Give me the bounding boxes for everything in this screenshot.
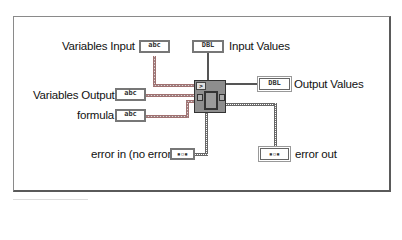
caption-underline	[13, 199, 88, 200]
variables-output-terminal[interactable]: abc	[115, 88, 146, 101]
formula-label: formula	[77, 109, 114, 122]
output-values-terminal[interactable]: DBL	[259, 78, 290, 90]
wire-output-values	[225, 83, 258, 85]
variables-input-label: Variables Input	[62, 40, 135, 53]
formula-node-icon[interactable]: >	[194, 80, 226, 113]
node-input-subicon: >	[196, 82, 206, 90]
error-out-terminal[interactable]: ▪▫▪	[260, 148, 289, 160]
variables-output-label: Variables Output	[33, 89, 115, 102]
error-cluster-icon: ▪▫▪	[177, 150, 188, 157]
error-out-label: error out	[295, 148, 337, 161]
string-type-tag: abc	[148, 42, 161, 49]
variables-input-terminal[interactable]: abc	[139, 40, 170, 53]
input-values-terminal[interactable]: DBL	[192, 40, 224, 53]
node-center-subicon	[204, 91, 218, 110]
wire-variables-input-v	[153, 56, 156, 86]
wire-formula-h	[146, 115, 188, 118]
formula-terminal[interactable]: abc	[115, 109, 146, 122]
dbl-type-tag: DBL	[202, 42, 215, 49]
input-values-label: Input Values	[229, 40, 290, 53]
dbl-type-tag: DBL	[268, 79, 281, 88]
node-left-terminal-icon	[197, 94, 203, 101]
wire-error-in-v	[205, 112, 208, 156]
error-in-label: error in (no error)	[91, 148, 175, 161]
output-values-label: Output Values	[294, 78, 363, 91]
wire-variables-input-h	[153, 84, 195, 87]
node-right-terminal-icon	[219, 94, 225, 101]
wire-input-values	[207, 53, 209, 81]
error-cluster-icon: ▪▫▪	[269, 149, 280, 158]
wire-error-out-h	[225, 103, 277, 106]
wire-variables-output	[146, 94, 195, 97]
wire-error-out-v	[274, 103, 277, 147]
error-in-terminal[interactable]: ▪▫▪	[170, 148, 195, 160]
wire-error-in-h	[194, 153, 208, 156]
string-type-tag: abc	[124, 90, 137, 97]
string-type-tag: abc	[124, 111, 137, 118]
